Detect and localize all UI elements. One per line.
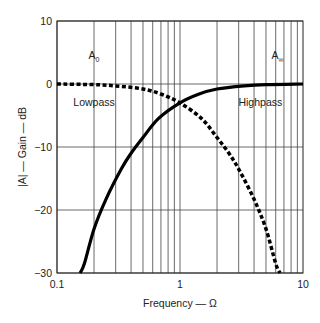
y-tick-label: 0 (46, 78, 52, 90)
annotation: Highpass (238, 96, 282, 108)
x-tick-label: 1 (177, 278, 183, 290)
y-tick-label: −10 (34, 141, 52, 153)
annotations: A0A∞LowpassHighpass (73, 49, 283, 108)
y-axis-label: |A| — Gain — dB (16, 107, 28, 187)
tick-labels: 100−10−20−300.1110 (34, 15, 309, 290)
y-tick-label: −20 (34, 204, 52, 216)
y-tick-label: 10 (40, 15, 52, 27)
x-axis-label: Frequency — Ω (143, 297, 217, 309)
series-highpass (80, 84, 303, 273)
annotation-subscript: ∞ (278, 56, 283, 63)
annotation-subscript: 0 (96, 56, 100, 63)
chart: 100−10−20−300.1110 A0A∞LowpassHighpass F… (0, 0, 320, 323)
x-tick-label: 10 (297, 278, 309, 290)
annotation: A0 (89, 49, 100, 63)
annotation: A∞ (271, 49, 283, 63)
annotation: Lowpass (73, 96, 114, 108)
x-tick-label: 0.1 (50, 278, 65, 290)
